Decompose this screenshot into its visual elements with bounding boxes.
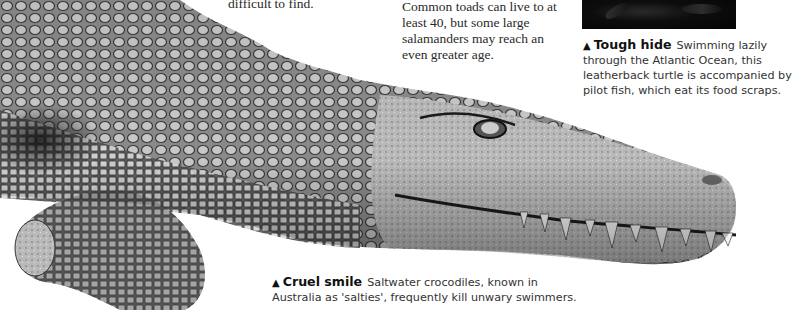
crocodile-caption: ▲Cruel smileSaltwater crocodiles, known … (272, 274, 592, 305)
caption-line: Saltwater crocodiles, known in (367, 276, 538, 289)
body-text-column-1: difficult to find. (228, 0, 378, 12)
body-text-column-2: Common toads can live to at least 40, bu… (402, 0, 572, 63)
caption-heading: Cruel smile (283, 274, 362, 289)
caption-line: leatherback turtle is accompanied by (583, 68, 753, 83)
caption-line: pilot fish, which eat its food scraps. (583, 83, 753, 98)
caption-line: Swimming lazily (676, 39, 767, 52)
triangle-marker-icon: ▲ (583, 40, 591, 51)
caption-line: through the Atlantic Ocean, this (583, 53, 753, 68)
triangle-marker-icon: ▲ (272, 277, 280, 288)
turtle-caption: ▲Tough hideSwimming lazily through the A… (583, 37, 753, 98)
turtle-photo (582, 0, 736, 29)
turtle-shell-shape (682, 4, 722, 14)
caption-heading: Tough hide (594, 37, 672, 52)
turtle-fin-shape (603, 0, 631, 22)
caption-line: Australia as 'salties', frequently kill … (272, 290, 592, 305)
